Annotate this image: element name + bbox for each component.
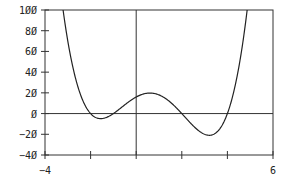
plot-frame <box>45 10 273 155</box>
x-tick-label: −4 <box>39 165 51 176</box>
zero-axes <box>45 10 273 155</box>
y-tick-label: −2Ø <box>19 129 37 140</box>
y-tick-label: 6Ø <box>25 46 37 57</box>
y-tick-label: 8Ø <box>25 26 37 37</box>
y-tick-label: Ø <box>31 109 37 120</box>
x-axis-tick-labels: −46 <box>39 165 276 176</box>
function-curve <box>45 0 273 135</box>
y-axis-tick-labels: 1ØØ8Ø6Ø4Ø2ØØ−2Ø−4Ø <box>19 5 37 161</box>
x-tick-label: 6 <box>270 165 276 176</box>
y-tick-label: 1ØØ <box>19 5 37 16</box>
function-plot: 1ØØ8Ø6Ø4Ø2ØØ−2Ø−4Ø −46 <box>0 0 288 183</box>
y-tick-label: 4Ø <box>25 67 37 78</box>
axis-ticks <box>41 10 273 159</box>
y-tick-label: 2Ø <box>25 88 37 99</box>
plot-border <box>45 10 273 155</box>
y-tick-label: −4Ø <box>19 150 37 161</box>
